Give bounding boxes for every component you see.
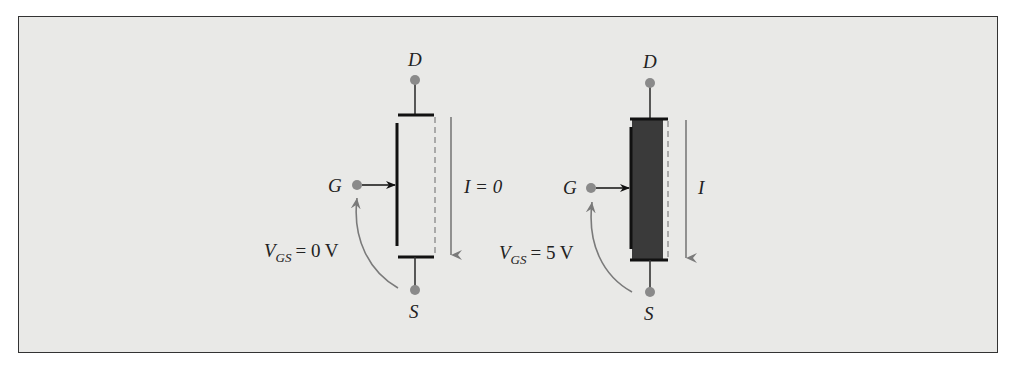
current-label: I — [697, 177, 706, 198]
gate-terminal-dot — [352, 180, 362, 190]
conducting-channel — [632, 119, 663, 260]
current-label: I = 0 — [463, 176, 503, 197]
source-label: S — [409, 301, 419, 322]
gate-label: G — [563, 177, 577, 198]
drain-label: D — [642, 51, 657, 72]
mosfet-diagram: D S G I = 0 VGS= 0 V D S G — [0, 0, 1018, 368]
source-label: S — [644, 303, 654, 324]
drain-terminal-dot — [645, 78, 655, 88]
right-transistor: D S G I VGS= 5 V — [499, 51, 706, 324]
vgs-label: VGS= 0 V — [264, 240, 339, 265]
vgs-label: VGS= 5 V — [499, 242, 574, 267]
drain-label: D — [407, 49, 422, 70]
source-terminal-dot — [645, 287, 655, 297]
source-terminal-dot — [410, 285, 420, 295]
gate-label: G — [328, 175, 342, 196]
vgs-curved-arrow-icon — [356, 198, 398, 288]
drain-terminal-dot — [410, 75, 420, 85]
left-transistor: D S G I = 0 VGS= 0 V — [264, 49, 503, 322]
gate-terminal-dot — [586, 183, 596, 193]
vgs-curved-arrow-icon — [591, 202, 632, 292]
